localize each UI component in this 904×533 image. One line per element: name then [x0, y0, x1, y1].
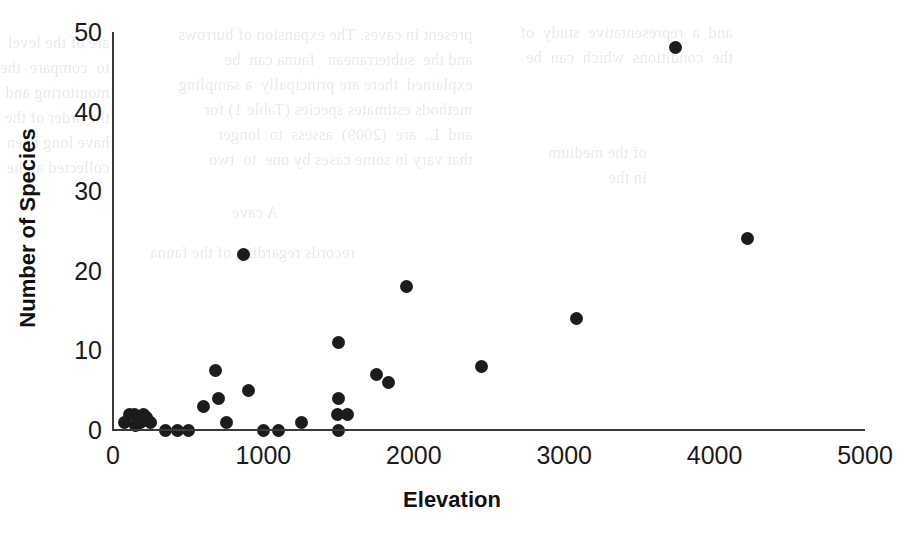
data-point [332, 392, 345, 405]
x-axis-line [113, 429, 865, 431]
data-point [382, 376, 395, 389]
data-point [341, 408, 354, 421]
x-tick-label: 1000 [236, 441, 292, 470]
data-point [570, 312, 583, 325]
data-point [197, 400, 210, 413]
data-point [332, 336, 345, 349]
x-tick-label: 5000 [837, 441, 893, 470]
data-point [144, 416, 157, 429]
data-point [209, 364, 222, 377]
x-tick-label: 4000 [687, 441, 743, 470]
data-point [242, 384, 255, 397]
x-tick-label: 2000 [386, 441, 442, 470]
y-axis-title: Number of Species [15, 98, 41, 358]
data-point [400, 280, 413, 293]
plot-area [113, 32, 865, 430]
data-point [475, 360, 488, 373]
x-axis-title: Elevation [0, 487, 904, 513]
data-point [669, 41, 682, 54]
data-point [237, 248, 250, 261]
x-tick-label: 0 [106, 441, 120, 470]
data-point [295, 416, 308, 429]
x-tick-label: 3000 [536, 441, 592, 470]
y-axis-line [112, 32, 114, 431]
data-point [370, 368, 383, 381]
data-point [212, 392, 225, 405]
scatter-plot-figure: present in caves. The expansion of burro… [0, 0, 904, 533]
y-tick-label: 50 [30, 18, 102, 47]
data-point [220, 416, 233, 429]
y-tick-label: 0 [30, 416, 102, 445]
data-point [741, 232, 754, 245]
